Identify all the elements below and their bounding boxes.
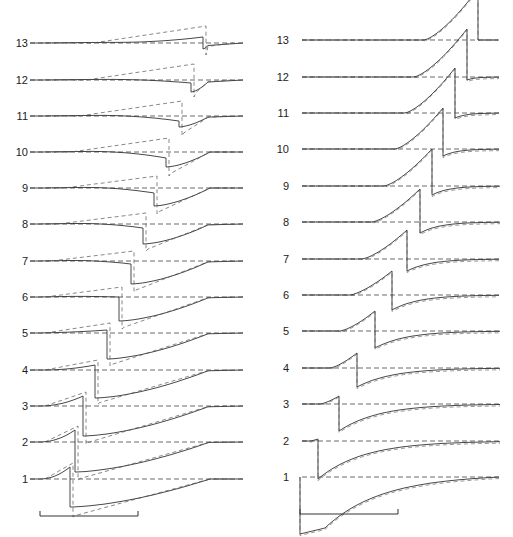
trace-solid (302, 271, 499, 310)
trace-label: 9 (283, 180, 289, 192)
trace-label: 7 (283, 253, 289, 265)
trace-model-dashed (45, 323, 233, 366)
trace-label: 6 (22, 291, 28, 303)
trace-solid (30, 151, 243, 167)
trace-solid (302, 311, 500, 348)
trace-label: 10 (277, 143, 289, 155)
trace-model-dashed (45, 138, 233, 176)
trace-label: 5 (22, 327, 28, 339)
trace-solid (302, 68, 499, 118)
trace-solid (30, 330, 243, 359)
trace-solid (30, 224, 243, 245)
trace-model-dashed (45, 64, 233, 97)
trace-solid (300, 477, 499, 534)
trace-figure: 12345678910111213 12345678910111213 (0, 0, 513, 537)
trace-label: 5 (283, 325, 289, 337)
trace-solid (302, 29, 499, 80)
trace-label: 1 (283, 471, 289, 483)
trace-label: 8 (22, 218, 28, 230)
trace-label: 2 (283, 435, 289, 447)
trace-solid (30, 467, 243, 507)
trace-solid (30, 187, 243, 206)
trace-label: 7 (22, 255, 28, 267)
trace-label: 1 (22, 473, 28, 485)
trace-label: 4 (283, 362, 289, 374)
trace-solid (30, 296, 243, 321)
trace-model-dashed (300, 477, 499, 536)
trace-model-dashed (45, 213, 233, 251)
trace-label: 13 (277, 34, 289, 46)
trace-label: 12 (16, 74, 28, 86)
right-trace-panel: 12345678910111213 (277, 0, 500, 536)
trace-model-dashed (45, 426, 233, 480)
scale-bar (40, 511, 138, 516)
trace-label: 11 (17, 110, 28, 122)
trace-model-dashed (45, 26, 233, 55)
trace-label: 9 (22, 182, 28, 194)
trace-label: 2 (22, 436, 28, 448)
trace-model-dashed (302, 354, 500, 388)
trace-solid (30, 430, 243, 472)
trace-model-dashed (302, 150, 500, 196)
trace-solid (302, 149, 500, 195)
trace-label: 6 (283, 289, 289, 301)
trace-model-dashed (302, 231, 499, 272)
trace-label: 4 (22, 364, 28, 376)
trace-solid (302, 189, 500, 233)
trace-model-dashed (302, 190, 500, 234)
trace-model-dashed (302, 440, 500, 480)
trace-label: 10 (16, 146, 28, 158)
trace-label: 8 (283, 216, 289, 228)
trace-label: 3 (283, 398, 289, 410)
trace-model-dashed (45, 463, 233, 517)
trace-label: 11 (278, 107, 289, 119)
trace-model-dashed (45, 251, 233, 292)
trace-model-dashed (45, 360, 233, 404)
trace-solid (30, 115, 243, 127)
trace-label: 13 (16, 37, 28, 49)
trace-solid (302, 230, 499, 271)
trace-solid (30, 79, 243, 92)
trace-solid (30, 261, 243, 285)
trace-model-dashed (45, 176, 233, 214)
trace-label: 3 (22, 400, 28, 412)
trace-solid (302, 0, 498, 40)
trace-label: 12 (277, 71, 289, 83)
trace-solid (302, 439, 500, 479)
trace-model-dashed (302, 0, 498, 41)
trace-model-dashed (302, 397, 500, 432)
trace-model-dashed (45, 287, 233, 329)
left-trace-panel: 12345678910111213 (16, 26, 243, 517)
trace-solid (30, 396, 243, 436)
trace-model-dashed (302, 30, 499, 81)
trace-solid (302, 353, 500, 387)
